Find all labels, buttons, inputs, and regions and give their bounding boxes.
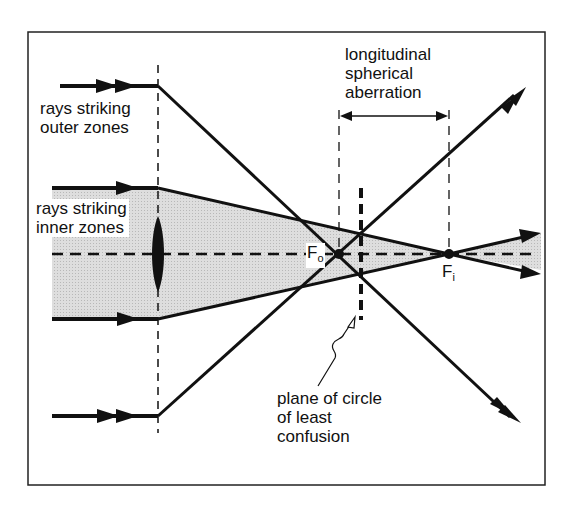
plane-label-line3: confusion	[277, 427, 382, 446]
plane-label: plane of circle of least confusion	[277, 389, 382, 446]
outer-rays-label-line1: rays striking	[40, 99, 131, 118]
aberration-dimension-arrow	[340, 111, 448, 121]
plane-label-line2: of least	[277, 408, 382, 427]
inner-rays-label-line2: inner zones	[36, 218, 127, 237]
inner-rays-label: rays striking inner zones	[34, 199, 129, 237]
plane-pointer-arrow	[318, 317, 355, 386]
focus-outer-letter: F	[307, 243, 317, 262]
aberration-label: longitudinal spherical aberration	[345, 45, 431, 102]
outer-rays-label: rays striking outer zones	[38, 99, 133, 137]
aberration-label-line3: aberration	[345, 83, 431, 102]
focal-point-inner	[444, 249, 454, 259]
focus-outer-subscript: o	[317, 252, 323, 264]
focus-outer-label: Fo	[306, 243, 325, 268]
focus-inner-label: Fi	[442, 262, 455, 287]
plane-label-line1: plane of circle	[277, 389, 382, 408]
inner-rays-label-line1: rays striking	[36, 199, 127, 218]
focus-inner-subscript: i	[452, 271, 454, 283]
outer-rays-label-line2: outer zones	[40, 118, 131, 137]
aberration-label-line2: spherical	[345, 64, 431, 83]
focus-inner-letter: F	[442, 262, 452, 281]
focal-point-outer	[334, 249, 344, 259]
aberration-label-line1: longitudinal	[345, 45, 431, 64]
spherical-aberration-diagram: rays striking outer zones rays striking …	[0, 0, 569, 508]
